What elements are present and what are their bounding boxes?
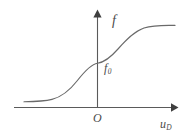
x-axis-label: uD xyxy=(160,118,171,130)
y-intercept-label: f0 xyxy=(104,62,111,74)
y-axis-arrowhead-icon xyxy=(93,10,101,18)
sigmoid-figure: f f0 O uD xyxy=(0,0,185,137)
x-axis-label-subscript: D xyxy=(166,123,171,132)
y-axis-label: f xyxy=(112,14,116,28)
y-intercept-label-main: f xyxy=(104,61,107,75)
y-intercept-label-subscript: 0 xyxy=(108,67,112,76)
sigmoid-curve xyxy=(24,25,175,102)
origin-label: O xyxy=(93,112,102,124)
x-axis-arrowhead-icon xyxy=(171,103,179,111)
